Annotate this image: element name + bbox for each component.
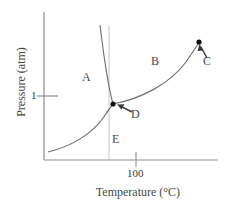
sublimation-curve	[48, 104, 113, 152]
phase-diagram-figure: Pressure (atm) Temperature (°C) 1 100 A …	[0, 0, 228, 207]
phase-diagram-plot	[0, 0, 228, 207]
y-axis-label: Pressure (atm)	[15, 28, 27, 136]
region-label-b: B	[151, 55, 159, 67]
triple-point-marker	[110, 101, 115, 106]
fusion-curve	[100, 25, 113, 104]
region-label-a: A	[82, 71, 91, 83]
arrow-to-d-icon	[117, 104, 132, 112]
x-axis-label: Temperature (°C)	[58, 186, 218, 198]
y-axis-tick-label-1: 1	[31, 90, 37, 101]
vaporization-curve	[113, 43, 199, 104]
point-label-c: C	[203, 55, 211, 67]
region-label-e: E	[112, 133, 119, 145]
point-label-d: D	[131, 108, 140, 120]
critical-point-marker	[196, 39, 201, 44]
x-axis-tick-label-100: 100	[127, 168, 144, 179]
